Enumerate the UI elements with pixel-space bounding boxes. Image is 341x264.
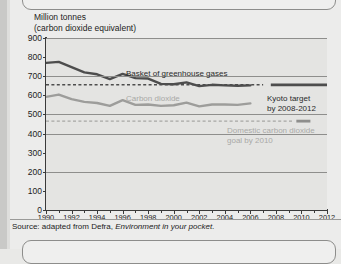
x-tick-2003 — [212, 210, 213, 213]
domestic-line-2: goal by 2010 — [227, 136, 273, 145]
x-tick-label-2006: 2006 — [242, 213, 258, 222]
y-tick-label-300: 300 — [18, 148, 42, 158]
y-tick-label-900: 900 — [18, 33, 42, 43]
annotation-domestic-goal: Domestic carbon dioxidegoal by 2010 — [227, 126, 315, 145]
annotation-kyoto-target: Kyoto targetby 2008-2012 — [267, 94, 316, 113]
plot-area — [46, 38, 327, 210]
x-tick-label-2002: 2002 — [191, 213, 207, 222]
x-tick-label-1990: 1990 — [38, 213, 54, 222]
y-tick-400 — [43, 134, 46, 135]
kyoto-line-1: Kyoto target — [267, 94, 310, 103]
kyoto-line-2: by 2008-2012 — [267, 104, 316, 113]
y-tick-label-500: 500 — [18, 109, 42, 119]
axis-title-line-2: (carbon dioxide equivalent) — [34, 23, 136, 33]
source-suffix: . — [212, 222, 214, 231]
x-tick-label-2012: 2012 — [319, 213, 335, 222]
x-tick-2001 — [187, 210, 188, 213]
x-tick-label-1996: 1996 — [114, 213, 130, 222]
y-tick-900 — [43, 38, 46, 39]
source-note: Source: adapted from Defra, Environment … — [12, 222, 214, 231]
gridline-500 — [46, 114, 327, 115]
y-tick-100 — [43, 191, 46, 192]
x-tick-2007 — [263, 210, 264, 213]
series-canvas — [46, 38, 327, 210]
gridline-900 — [46, 38, 327, 39]
source-italic-title: Environment in your pocket — [115, 222, 212, 231]
axis-title-line-1: Million tonnes — [34, 12, 86, 22]
x-tick-label-2000: 2000 — [165, 213, 181, 222]
chart-axis-title: Million tonnes(carbon dioxide equivalent… — [34, 12, 136, 33]
y-tick-800 — [43, 57, 46, 58]
y-tick-label-200: 200 — [18, 167, 42, 177]
x-tick-2005 — [238, 210, 239, 213]
y-tick-700 — [43, 76, 46, 77]
x-tick-label-2004: 2004 — [217, 213, 233, 222]
x-tick-label-1998: 1998 — [140, 213, 156, 222]
series-label-carbon-dioxide: Carbon dioxide — [126, 94, 180, 104]
x-tick-2009 — [289, 210, 290, 213]
x-tick-1997 — [135, 210, 136, 213]
chart-figure: Million tonnes(carbon dioxide equivalent… — [10, 6, 341, 238]
y-tick-label-800: 800 — [18, 52, 42, 62]
x-tick-1999 — [161, 210, 162, 213]
page-gutter-shadow — [0, 0, 7, 249]
domestic-line-1: Domestic carbon dioxide — [227, 126, 315, 135]
y-tick-label-100: 100 — [18, 186, 42, 196]
x-tick-1991 — [59, 210, 60, 213]
y-tick-200 — [43, 172, 46, 173]
source-divider — [10, 219, 341, 220]
y-tick-600 — [43, 95, 46, 96]
series-label-basket: Basket of greenhouse gases — [126, 69, 227, 79]
x-tick-label-1994: 1994 — [89, 213, 105, 222]
gridline-200 — [46, 172, 327, 173]
x-tick-label-2008: 2008 — [268, 213, 284, 222]
y-tick-500 — [43, 114, 46, 115]
plot-inner — [46, 38, 327, 210]
x-tick-1993 — [84, 210, 85, 213]
x-tick-2011 — [314, 210, 315, 213]
y-tick-300 — [43, 153, 46, 154]
x-tick-label-2010: 2010 — [293, 213, 309, 222]
x-tick-1995 — [110, 210, 111, 213]
y-tick-label-700: 700 — [18, 71, 42, 81]
adjacent-panel-bottom — [22, 240, 336, 264]
y-tick-label-600: 600 — [18, 90, 42, 100]
x-tick-label-1992: 1992 — [63, 213, 79, 222]
y-tick-label-400: 400 — [18, 129, 42, 139]
source-prefix: Source: adapted from Defra, — [12, 222, 115, 231]
